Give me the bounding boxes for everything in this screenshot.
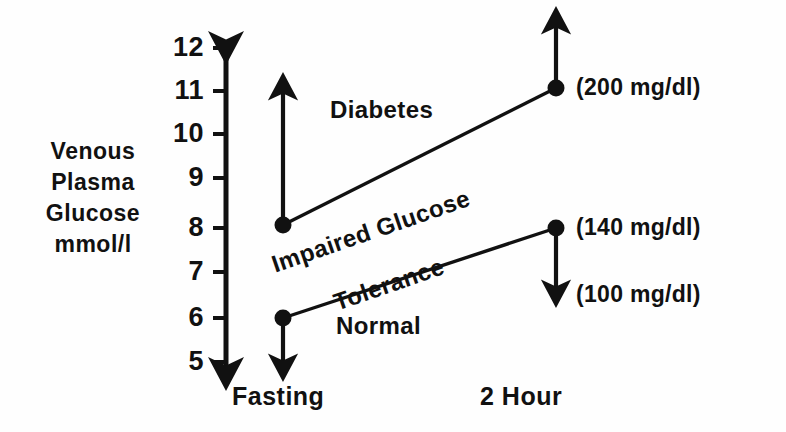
- data-point-fasting-diabetes: [275, 217, 292, 234]
- x-tick-label-fasting: Fasting: [232, 382, 324, 411]
- data-point-two-hour-diabetes: [548, 80, 565, 97]
- annotation-140-mgdl: (140 mg/dl): [576, 214, 701, 241]
- band-label-normal: Normal: [336, 312, 421, 340]
- chart-figure: Venous Plasma Glucose mmol/l 12 11 10 9 …: [0, 0, 786, 432]
- band-label-diabetes: Diabetes: [330, 96, 433, 124]
- data-point-fasting-igt: [275, 310, 292, 327]
- annotation-100-mgdl: (100 mg/dl): [576, 281, 701, 308]
- data-point-two-hour-igt: [548, 220, 565, 237]
- annotation-200-mgdl: (200 mg/dl): [576, 74, 701, 101]
- x-tick-label-two-hour: 2 Hour: [480, 382, 562, 411]
